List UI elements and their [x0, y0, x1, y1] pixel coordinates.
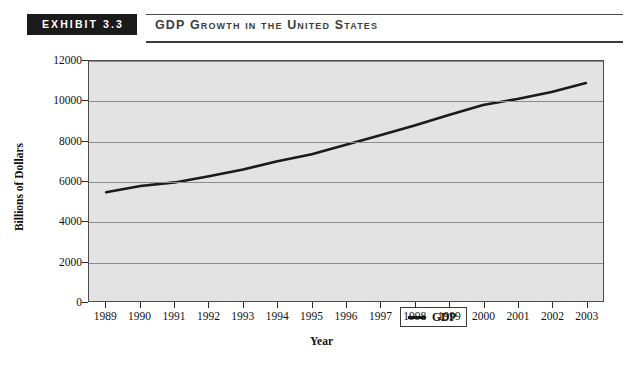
gridline	[89, 142, 603, 143]
y-axis-tick-mark	[82, 100, 88, 101]
x-axis-title: Year	[0, 335, 643, 347]
y-axis-tick-label: 10000	[36, 94, 82, 106]
x-axis-tick-mark	[380, 302, 381, 308]
gridline	[89, 222, 603, 223]
y-axis-title: Billions of Dollars	[13, 107, 25, 267]
gridline	[89, 263, 603, 264]
y-axis-tick-label: 2000	[36, 256, 82, 268]
exhibit-number-badge: EXHIBIT 3.3	[27, 14, 137, 35]
x-axis-tick-mark	[415, 302, 416, 308]
y-axis-tick-label: 4000	[36, 215, 82, 227]
header-rule-top	[146, 14, 623, 15]
x-axis-tick-mark	[587, 302, 588, 308]
y-axis-tick-mark	[82, 302, 88, 303]
y-axis-tick-mark	[82, 60, 88, 61]
y-axis-tick-mark	[82, 181, 88, 182]
y-axis-tick-mark	[82, 221, 88, 222]
x-axis-tick-mark	[346, 302, 347, 308]
y-axis-tick-label: 0	[36, 296, 82, 308]
gridline	[89, 101, 603, 102]
x-axis-tick-mark	[312, 302, 313, 308]
header-rule-bottom	[146, 41, 623, 43]
series-line	[106, 83, 586, 192]
x-axis-tick-mark	[449, 302, 450, 308]
x-axis-tick-mark	[140, 302, 141, 308]
x-axis-tick-mark	[484, 302, 485, 308]
y-axis-tick-label: 8000	[36, 135, 82, 147]
x-axis-tick-mark	[277, 302, 278, 308]
y-axis-tick-labels: 020004000600080001000012000	[30, 60, 82, 302]
y-axis-tick-label: 12000	[36, 54, 82, 66]
x-axis-tick-mark	[208, 302, 209, 308]
x-axis-tick-mark	[105, 302, 106, 308]
y-axis-tick-mark	[82, 262, 88, 263]
plot-area	[88, 60, 604, 302]
exhibit-title: GDP Growth in the United States	[155, 18, 378, 32]
y-axis-tick-label: 6000	[36, 175, 82, 187]
exhibit-header: EXHIBIT 3.3 GDP Growth in the United Sta…	[0, 0, 643, 46]
x-axis-tick-mark	[552, 302, 553, 308]
gridline	[89, 61, 603, 62]
x-axis-tick-mark	[518, 302, 519, 308]
gridline	[89, 182, 603, 183]
x-axis-tick-mark	[243, 302, 244, 308]
series-gdp-line	[89, 61, 603, 301]
y-axis-tick-mark	[82, 141, 88, 142]
x-axis-tick-label: 2003	[567, 310, 607, 322]
x-axis-tick-mark	[174, 302, 175, 308]
gdp-line-chart: Billions of Dollars 02000400060008000100…	[0, 46, 643, 369]
